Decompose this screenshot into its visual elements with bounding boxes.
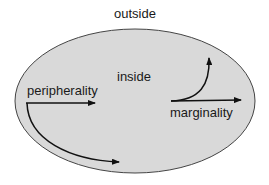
marginality-label: marginality: [170, 106, 233, 119]
inside-label: inside: [117, 70, 151, 83]
peripherality-label: peripherality: [27, 84, 98, 97]
outside-label: outside: [114, 7, 156, 20]
